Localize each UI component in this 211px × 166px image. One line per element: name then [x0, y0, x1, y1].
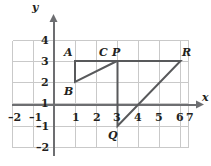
- x-tick-label-3: 3: [113, 112, 121, 123]
- y-tick-label-3: 3: [41, 56, 49, 67]
- point-label-c: C: [99, 47, 108, 58]
- x-tick-label-1: 1: [72, 112, 80, 123]
- y-axis-arrow: [50, 14, 58, 22]
- y-tick-label--1: –1: [36, 121, 49, 132]
- y-tick-label-4: 4: [41, 35, 49, 46]
- x-tick-label-4: 4: [134, 112, 142, 123]
- axis-lines: [12, 22, 196, 156]
- point-label-p: P: [112, 47, 120, 58]
- point-label-b: B: [64, 86, 73, 97]
- y-tick-label-1: 1: [41, 98, 49, 109]
- plot-canvas: [0, 0, 211, 166]
- x-tick-label-5: 5: [155, 112, 163, 123]
- y-axis-label: y: [32, 2, 38, 13]
- x-tick-label--2: –2: [8, 112, 21, 123]
- point-label-r: R: [182, 47, 191, 58]
- point-label-a: A: [64, 47, 73, 58]
- x-tick-label-6: 6: [176, 112, 184, 123]
- coordinate-plane-figure: –2 –1 1 2 3 4 5 6 7 4 3 2 1 –1 –2 y x A …: [0, 0, 211, 166]
- x-tick-label-7: 7: [186, 112, 194, 123]
- triangle-pqr: [118, 61, 181, 126]
- y-tick-label--2: –2: [36, 142, 49, 153]
- x-axis-label: x: [202, 92, 209, 103]
- point-label-q: Q: [108, 130, 118, 141]
- x-tick-label-2: 2: [93, 112, 101, 123]
- y-tick-label-2: 2: [41, 77, 49, 88]
